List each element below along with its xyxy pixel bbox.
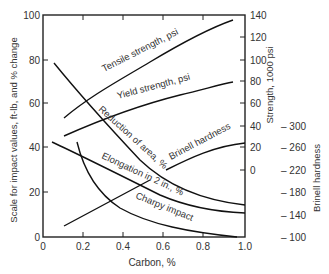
svg-text:– 140: – 140 bbox=[281, 210, 306, 221]
x-axis-label: Carbon, % bbox=[128, 257, 175, 268]
tensile-label: Tensile strength, psi bbox=[100, 26, 180, 74]
svg-text:– 300: – 300 bbox=[281, 121, 306, 132]
svg-text:60: 60 bbox=[250, 98, 262, 109]
svg-text:0: 0 bbox=[250, 165, 256, 176]
svg-text:40: 40 bbox=[250, 121, 262, 132]
brinell-label: Brinell hardness bbox=[167, 120, 233, 162]
svg-text:20: 20 bbox=[29, 187, 41, 198]
svg-text:120: 120 bbox=[250, 32, 267, 43]
svg-text:100: 100 bbox=[23, 10, 40, 21]
svg-text:20: 20 bbox=[250, 142, 262, 153]
svg-text:0.8: 0.8 bbox=[196, 241, 210, 252]
svg-text:– 260: – 260 bbox=[281, 142, 306, 153]
x-tick-labels: 0 0.2 0.4 0.6 0.8 1.0 bbox=[40, 241, 252, 252]
brinell-axis-label: Brinell hardness bbox=[311, 144, 322, 212]
svg-text:0.6: 0.6 bbox=[156, 241, 170, 252]
svg-text:– 180: – 180 bbox=[281, 187, 306, 198]
svg-text:1.0: 1.0 bbox=[238, 241, 252, 252]
svg-text:40: 40 bbox=[29, 142, 41, 153]
left-y-axis-label: Scale for impact values, ft-lb, and % ch… bbox=[8, 37, 19, 222]
svg-text:80: 80 bbox=[250, 76, 262, 87]
svg-text:– 220: – 220 bbox=[281, 165, 306, 176]
left-y-tick-labels: 100 80 60 40 20 0 bbox=[23, 10, 40, 243]
brinell-tick-labels: – 300 – 260 – 220 – 180 – 140 – 100 bbox=[281, 121, 306, 243]
svg-text:80: 80 bbox=[29, 55, 41, 66]
strength-ticks bbox=[240, 37, 245, 170]
svg-text:60: 60 bbox=[29, 98, 41, 109]
svg-text:0.4: 0.4 bbox=[116, 241, 130, 252]
strength-axis-label: Strength, 1000 psi bbox=[264, 46, 275, 123]
svg-text:0.2: 0.2 bbox=[76, 241, 90, 252]
left-y-ticks bbox=[43, 60, 48, 192]
svg-text:– 100: – 100 bbox=[281, 232, 306, 243]
svg-text:0: 0 bbox=[34, 232, 40, 243]
svg-text:140: 140 bbox=[250, 10, 267, 21]
svg-text:0: 0 bbox=[40, 241, 46, 252]
carbon-steel-properties-chart: 0 0.2 0.4 0.6 0.8 1.0 Carbon, % 100 80 6… bbox=[0, 0, 329, 274]
